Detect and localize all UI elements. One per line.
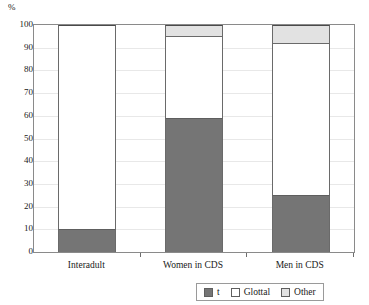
legend-swatch-other [281,288,290,297]
y-tick-label-100: 100 [7,20,33,29]
y-axis-tick-group: 1009080706050403020100 [0,24,33,253]
bar-segment-glottal [58,25,116,229]
legend-swatch-glottal [231,288,240,297]
legend-item-t[interactable]: t [204,287,220,297]
x-tick-mark-2 [246,253,247,257]
y-tick-label-10: 10 [7,224,33,233]
bar-interadult[interactable] [58,25,116,252]
y-tick-label-0: 0 [7,247,33,256]
bar-men-in-cds[interactable] [272,25,330,252]
x-axis-label-men-in-cds: Men in CDS [246,259,353,271]
bar-segment-t [58,229,116,252]
legend-label-t: t [217,287,220,297]
bar-segment-other [272,25,330,43]
y-tick-label-70: 70 [7,88,33,97]
y-tick-label-20: 20 [7,201,33,210]
bar-segment-glottal [272,43,330,195]
x-axis-label-interadult: Interadult [33,259,140,271]
y-tick-label-60: 60 [7,110,33,119]
legend-item-glottal[interactable]: Glottal [231,287,270,297]
x-tick-mark-1 [140,253,141,257]
y-tick-label-90: 90 [7,42,33,51]
legend-label-other: Other [294,287,316,297]
plot-area [33,24,355,253]
bar-segment-other [165,25,223,36]
x-axis-label-group: InteradultWomen in CDSMen in CDS [33,259,355,273]
x-axis-label-women-in-cds: Women in CDS [140,259,247,271]
y-tick-label-30: 30 [7,178,33,187]
chart-legend: tGlottalOther [196,283,324,301]
y-axis-unit-label: % [8,2,16,12]
y-tick-label-50: 50 [7,133,33,142]
x-tick-mark-end [353,253,354,257]
bar-segment-glottal [165,36,223,118]
legend-swatch-t [204,288,213,297]
y-tick-label-80: 80 [7,65,33,74]
legend-item-other[interactable]: Other [281,287,316,297]
bar-segment-t [272,195,330,252]
y-tick-label-40: 40 [7,156,33,165]
legend-label-glottal: Glottal [244,287,270,297]
bar-women-in-cds[interactable] [165,25,223,252]
bar-segment-t [165,118,223,252]
x-axis-tick-group [33,253,355,258]
